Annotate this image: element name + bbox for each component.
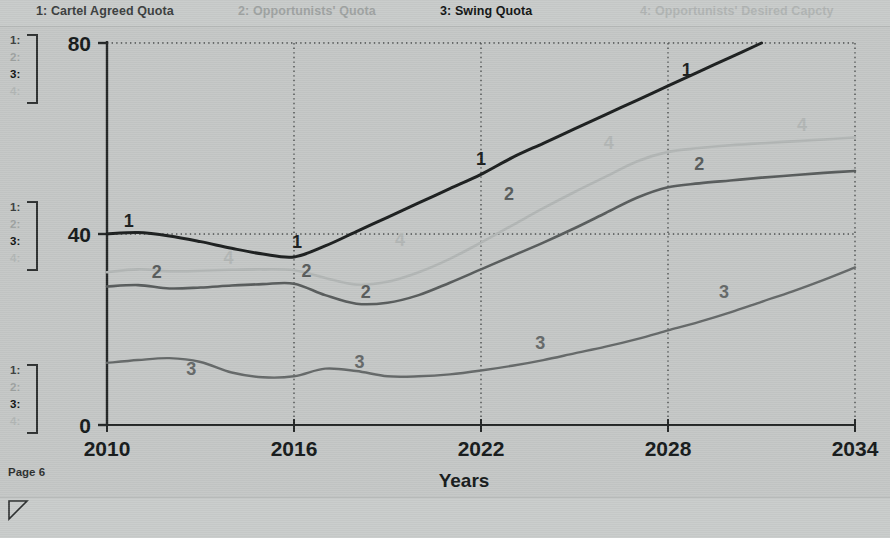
x-tick-label: 2016: [271, 437, 318, 460]
legend-item-1: 1: Cartel Agreed Quota: [36, 4, 174, 18]
side-key-group-middle: 1: 2: 3: 4:: [10, 199, 44, 271]
series-label-4: 4: [604, 133, 614, 153]
side-key-row-3: 3:: [10, 233, 20, 250]
series-label-1: 1: [682, 60, 692, 80]
side-key-row-2: 2:: [10, 49, 20, 66]
x-axis-title: Years: [439, 470, 490, 491]
side-key-row-4: 4:: [10, 413, 20, 430]
axis-lines: [98, 41, 855, 432]
side-key-bracket: [27, 201, 38, 271]
side-key-numbers: 1: 2: 3: 4:: [10, 362, 20, 430]
axis-titles: Years: [439, 470, 490, 491]
side-key-row-1: 1:: [10, 32, 20, 49]
series-label-2: 2: [301, 261, 311, 281]
side-key-row-4: 4:: [10, 250, 20, 267]
page-number-label: Page 6: [8, 466, 45, 478]
y-tick-label: 40: [68, 223, 91, 246]
series-label-1: 1: [124, 211, 134, 231]
y-tick-label: 0: [79, 414, 91, 437]
series-inline-labels: 11112222233334444: [124, 60, 807, 378]
side-key-row-1: 1:: [10, 362, 20, 379]
x-tick-label: 2010: [84, 437, 131, 460]
x-tick-label: 2028: [645, 437, 692, 460]
series-label-3: 3: [354, 352, 364, 372]
side-key-row-2: 2:: [10, 216, 20, 233]
series-label-4: 4: [395, 230, 405, 250]
data-series: [107, 43, 855, 378]
series-label-4: 4: [797, 115, 807, 135]
series-label-1: 1: [476, 149, 486, 169]
side-key-group-bottom: 1: 2: 3: 4:: [10, 362, 44, 434]
side-key-row-1: 1:: [10, 199, 20, 216]
series-label-2: 2: [361, 282, 371, 302]
x-tick-label: 2034: [832, 437, 879, 460]
legend-item-2: 2: Opportunists' Quota: [238, 4, 376, 18]
side-key-group-top: 1: 2: 3: 4:: [10, 32, 44, 104]
triangle-mark-icon: [8, 500, 30, 522]
legend-item-3: 3: Swing Quota: [440, 4, 532, 18]
side-key-bracket: [27, 34, 38, 104]
chart-legend: 1: Cartel Agreed Quota 2: Opportunists' …: [0, 0, 890, 27]
footer-band: [0, 497, 890, 538]
series-label-2: 2: [694, 154, 704, 174]
side-key-row-4: 4:: [10, 83, 20, 100]
line-chart: 11112222233334444 0408020102016202220282…: [0, 26, 890, 496]
series-label-4: 4: [224, 248, 234, 268]
x-tick-label: 2022: [458, 437, 505, 460]
series-label-2: 2: [504, 184, 514, 204]
side-key-numbers: 1: 2: 3: 4:: [10, 32, 20, 100]
side-key-row-3: 3:: [10, 396, 20, 413]
side-key-bracket: [27, 364, 38, 434]
series-label-3: 3: [719, 282, 729, 302]
series-label-3: 3: [535, 333, 545, 353]
series-label-2: 2: [152, 262, 162, 282]
series-label-3: 3: [186, 359, 196, 379]
side-key-row-3: 3:: [10, 66, 20, 83]
legend-item-4: 4: Opportunists' Desired Capcty: [640, 4, 834, 18]
side-key-numbers: 1: 2: 3: 4:: [10, 199, 20, 267]
side-key-row-2: 2:: [10, 379, 20, 396]
y-tick-label: 80: [68, 32, 91, 55]
series-line-1: [107, 43, 762, 257]
chart-page: 1: Cartel Agreed Quota 2: Opportunists' …: [0, 0, 890, 538]
chart-canvas: 11112222233334444 0408020102016202220282…: [0, 26, 890, 496]
series-label-1: 1: [292, 232, 302, 252]
